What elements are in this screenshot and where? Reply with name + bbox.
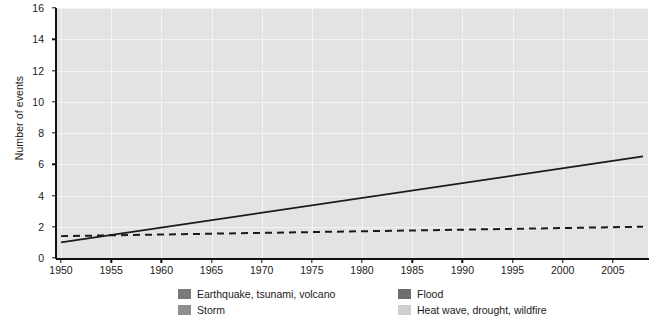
y-tick-label: 12 [8,65,44,77]
legend-label: Flood [417,288,443,300]
y-tick-label: 8 [8,127,44,139]
legend-item: Storm [178,304,398,316]
legend-label: Storm [197,304,225,316]
x-tick-label: 1965 [200,264,223,276]
y-tick-label: 4 [8,190,44,202]
y-tick-label: 2 [8,221,44,233]
trend-line-solid [61,156,643,242]
y-tick-label: 10 [8,96,44,108]
y-tick-mark [52,164,56,165]
legend-label: Earthquake, tsunami, volcano [197,288,335,300]
x-tick-label: 1985 [401,264,424,276]
x-tick-mark [562,259,563,263]
x-tick-label: 2000 [551,264,574,276]
legend-item: Heat wave, drought, wildfire [398,304,608,316]
legend-label: Heat wave, drought, wildfire [417,304,547,316]
y-tick-mark [52,132,56,133]
x-tick-mark [60,259,61,263]
x-tick-label: 2005 [601,264,624,276]
x-tick-mark [512,259,513,263]
chart-container: Number of events 0246810121416 195019551… [0,0,658,323]
legend: Earthquake, tsunami, volcanoFloodStormHe… [178,286,608,318]
legend-swatch [398,305,411,315]
x-tick-label: 1980 [350,264,373,276]
plot-area [56,8,648,258]
y-tick-label: 6 [8,158,44,170]
legend-item: Flood [398,288,608,300]
x-tick-label: 1990 [451,264,474,276]
y-tick-label: 16 [8,2,44,14]
x-tick-mark [612,259,613,263]
x-tick-mark [261,259,262,263]
y-tick-mark [52,101,56,102]
x-tick-mark [462,259,463,263]
x-tick-label: 1960 [150,264,173,276]
x-tick-mark [211,259,212,263]
y-tick-mark [52,7,56,8]
x-tick-mark [161,259,162,263]
x-tick-mark [361,259,362,263]
legend-item: Earthquake, tsunami, volcano [178,288,398,300]
y-tick-mark [52,195,56,196]
y-tick-mark [52,257,56,258]
legend-swatch [398,289,411,299]
trend-line-dashed [61,227,643,236]
x-tick-mark [311,259,312,263]
x-tick-label: 1950 [49,264,72,276]
y-tick-label: 14 [8,33,44,45]
x-axis-line [56,258,649,260]
x-tick-mark [110,259,111,263]
trend-lines [56,8,648,258]
x-tick-label: 1975 [300,264,323,276]
x-tick-mark [412,259,413,263]
x-tick-label: 1955 [99,264,122,276]
legend-swatch [178,289,191,299]
y-tick-mark [52,226,56,227]
y-tick-mark [52,39,56,40]
x-tick-label: 1970 [250,264,273,276]
y-tick-label: 0 [8,252,44,264]
x-tick-label: 1995 [501,264,524,276]
legend-swatch [178,305,191,315]
y-tick-mark [52,70,56,71]
